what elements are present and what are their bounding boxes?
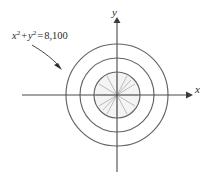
equation-rhs: 8,100 <box>44 30 68 41</box>
x-axis-arrowhead <box>186 92 193 99</box>
equation-operator: + <box>20 30 28 41</box>
equation-equals: = <box>36 30 44 41</box>
equation-annotation: x2+y2=8,100 <box>12 31 68 42</box>
annotation-arrowhead <box>54 63 62 70</box>
y-axis-label: y <box>112 7 117 18</box>
x-axis-label: x <box>195 84 200 95</box>
figure-container: x2+y2=8,100 y x <box>0 0 208 179</box>
annotation-leader-line <box>32 45 60 67</box>
coordinate-plane-svg <box>0 0 208 179</box>
